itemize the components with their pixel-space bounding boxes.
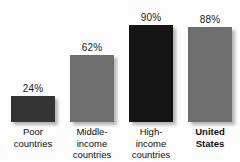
category-label-poor-countries: Poor countries bbox=[4, 126, 62, 149]
bar-high-income-countries bbox=[129, 25, 173, 122]
category-label-line: States bbox=[181, 138, 239, 150]
category-label-line: countries bbox=[4, 138, 62, 150]
category-label-middle-income-countries: Middle- income countries bbox=[63, 126, 121, 161]
category-label-line: income bbox=[63, 138, 121, 150]
bar-value-label: 90% bbox=[123, 12, 179, 23]
bar-poor-countries bbox=[11, 96, 55, 122]
category-label-line: Middle- bbox=[63, 126, 121, 138]
chart-plot-area: 24% 62% 90% 88% bbox=[0, 0, 240, 122]
bar-middle-income-countries bbox=[70, 55, 114, 122]
bar-chart: 24% 62% 90% 88% Poor countries Middle- i… bbox=[0, 0, 240, 162]
category-label-line: income bbox=[122, 138, 180, 150]
bar-value-label: 88% bbox=[182, 14, 238, 25]
category-label-high-income-countries: High- income countries bbox=[122, 126, 180, 161]
category-label-line: Poor bbox=[4, 126, 62, 138]
category-label-line: High- bbox=[122, 126, 180, 138]
bar-united-states bbox=[188, 27, 232, 122]
category-axis: Poor countries Middle- income countries … bbox=[0, 126, 240, 162]
category-label-united-states: United States bbox=[181, 126, 239, 149]
category-label-line: United bbox=[181, 126, 239, 138]
category-label-line: countries bbox=[122, 149, 180, 161]
bar-value-label: 24% bbox=[5, 83, 61, 94]
bar-value-label: 62% bbox=[64, 42, 120, 53]
category-label-line: countries bbox=[63, 149, 121, 161]
